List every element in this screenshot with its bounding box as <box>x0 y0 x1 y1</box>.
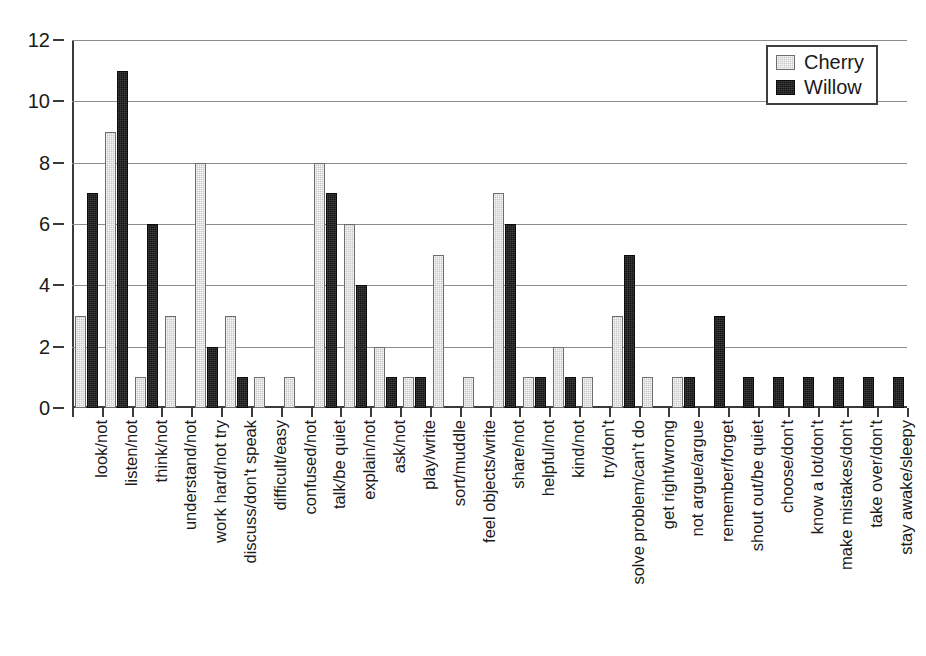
bar-group <box>221 40 251 408</box>
bar-willow <box>773 377 784 408</box>
bar-willow <box>117 71 128 408</box>
y-tick-mark <box>53 223 64 225</box>
y-tick-label: 12 <box>28 30 50 50</box>
legend-swatch-willow-icon <box>776 80 795 95</box>
legend-label-cherry: Cherry <box>804 52 864 72</box>
bar-willow <box>743 377 754 408</box>
x-tick-mark <box>251 408 253 417</box>
bar-cherry <box>403 377 414 408</box>
y-tick-mark <box>53 407 64 409</box>
bar-group <box>549 40 579 408</box>
bar-willow <box>535 377 546 408</box>
bar-group <box>132 40 162 408</box>
x-axis-label[interactable]: know a lot/don't <box>809 420 826 534</box>
x-axis-label[interactable]: shout out/be quiet <box>749 420 766 551</box>
bar-willow <box>207 347 218 408</box>
bar-willow <box>326 193 337 408</box>
x-tick-mark <box>72 408 74 417</box>
x-tick-mark <box>370 408 372 417</box>
x-tick-mark <box>698 408 700 417</box>
x-tick-mark <box>281 408 283 417</box>
bar-group <box>400 40 430 408</box>
bar-group <box>311 40 341 408</box>
x-axis-label[interactable]: listen/not <box>123 420 140 486</box>
bar-group <box>281 40 311 408</box>
x-tick-mark <box>907 408 909 417</box>
x-axis-label[interactable]: play/write <box>421 420 438 490</box>
x-tick-mark <box>609 408 611 417</box>
bar-cherry <box>433 255 444 408</box>
x-axis-label[interactable]: try/don't <box>600 420 617 478</box>
bar-cherry <box>523 377 534 408</box>
x-axis-label[interactable]: work hard/not try <box>212 420 229 543</box>
x-tick-mark <box>221 408 223 417</box>
x-axis-label[interactable]: stay awake/sleepy <box>898 420 915 555</box>
bar-group <box>251 40 281 408</box>
bar-group <box>430 40 460 408</box>
bar-cherry <box>672 377 683 408</box>
y-tick-label: 10 <box>28 91 50 111</box>
x-axis-label[interactable]: kind/not <box>570 420 587 478</box>
x-tick-mark <box>728 408 730 417</box>
bar-cherry <box>642 377 653 408</box>
bar-group <box>519 40 549 408</box>
x-axis-label[interactable]: share/not <box>510 420 527 489</box>
x-tick-mark <box>191 408 193 417</box>
x-axis-label[interactable]: explain/not <box>361 420 378 500</box>
bar-group <box>102 40 132 408</box>
bar-group <box>460 40 490 408</box>
x-axis-label[interactable]: confused/not <box>302 420 319 515</box>
x-tick-mark <box>400 408 402 417</box>
bar-willow <box>505 224 516 408</box>
bar-cherry <box>195 163 206 408</box>
y-tick-label: 0 <box>39 398 50 418</box>
bar-group <box>609 40 639 408</box>
y-tick-label: 2 <box>39 337 50 357</box>
x-tick-mark <box>519 408 521 417</box>
x-axis-label[interactable]: look/not <box>93 420 110 478</box>
bar-cherry <box>344 224 355 408</box>
x-axis-label[interactable]: feel objects/write <box>481 420 498 543</box>
bar-cherry <box>284 377 295 408</box>
y-tick-mark <box>53 284 64 286</box>
x-axis-label[interactable]: take over/don't <box>868 420 885 528</box>
bar-group <box>161 40 191 408</box>
x-tick-mark <box>579 408 581 417</box>
bar-cherry <box>254 377 265 408</box>
bar-willow <box>833 377 844 408</box>
y-tick-label: 8 <box>39 153 50 173</box>
bar-cherry <box>493 193 504 408</box>
x-tick-mark <box>758 408 760 417</box>
legend-item-cherry[interactable]: Cherry <box>776 52 864 72</box>
x-axis-label[interactable]: helpful/not <box>540 420 557 496</box>
bar-group <box>728 40 758 408</box>
x-axis-label[interactable]: choose/don't <box>779 420 796 513</box>
x-axis-label[interactable]: think/not <box>153 420 170 482</box>
bar-cherry <box>225 316 236 408</box>
x-axis-label[interactable]: get right/wrong <box>660 420 677 529</box>
x-axis-label[interactable]: talk/be quiet <box>331 420 348 509</box>
x-tick-mark <box>847 408 849 417</box>
x-axis-label[interactable]: make mistakes/don't <box>838 420 855 570</box>
x-axis-label[interactable]: discuss/don't speak <box>242 420 259 563</box>
bar-group <box>668 40 698 408</box>
bar-willow <box>893 377 904 408</box>
x-axis-label[interactable]: not argue/argue <box>689 420 706 537</box>
x-tick-mark <box>549 408 551 417</box>
x-axis-label[interactable]: remember/forget <box>719 420 736 542</box>
x-axis-label[interactable]: sort/muddle <box>451 420 468 506</box>
bar-cherry <box>463 377 474 408</box>
legend-item-willow[interactable]: Willow <box>776 77 864 97</box>
legend-label-willow: Willow <box>804 77 862 97</box>
bar-willow <box>356 285 367 408</box>
bar-willow <box>624 255 635 408</box>
bar-cherry <box>105 132 116 408</box>
x-axis-label[interactable]: ask/not <box>391 420 408 473</box>
x-tick-mark <box>311 408 313 417</box>
x-tick-mark <box>788 408 790 417</box>
x-axis-label[interactable]: difficult/easy <box>272 420 289 511</box>
bar-cherry <box>374 347 385 408</box>
bar-chart: 024681012 look/notlisten/notthink/notund… <box>0 0 926 656</box>
x-axis-label[interactable]: understand/not <box>182 420 199 530</box>
x-axis-label[interactable]: solve problem/can't do <box>630 420 647 585</box>
